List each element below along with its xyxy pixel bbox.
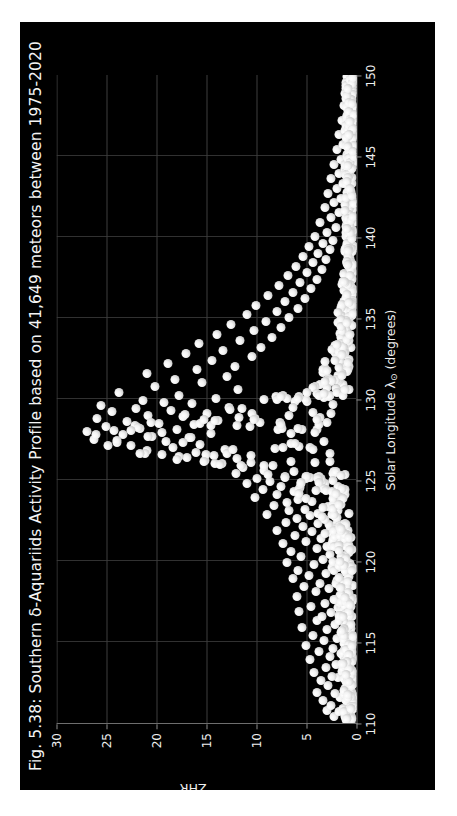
data-point — [301, 537, 310, 546]
plot-frame — [56, 75, 357, 724]
data-point — [126, 441, 135, 450]
data-point — [322, 625, 331, 634]
data-point — [321, 255, 330, 264]
data-point — [276, 323, 285, 332]
data-point — [310, 458, 319, 467]
data-point — [195, 440, 204, 449]
data-point — [242, 479, 251, 488]
data-point — [298, 252, 307, 261]
y-axis-tick-mark — [106, 724, 107, 729]
data-point — [272, 307, 281, 316]
data-point — [282, 558, 291, 567]
data-point — [343, 358, 352, 367]
data-point — [278, 443, 287, 452]
plot-area — [56, 75, 356, 723]
data-point — [251, 301, 260, 310]
data-point — [126, 426, 135, 435]
data-point — [295, 278, 304, 287]
chart-stage: Fig. 5.38: Southern δ-Aquariids Activity… — [20, 22, 435, 790]
data-point — [297, 623, 306, 632]
data-point — [157, 450, 166, 459]
data-point — [319, 437, 328, 446]
data-point — [187, 399, 196, 408]
data-point — [344, 130, 353, 139]
data-point — [181, 349, 190, 358]
data-point — [296, 552, 305, 561]
data-point — [304, 242, 313, 251]
data-point — [323, 189, 332, 198]
data-point — [284, 314, 293, 323]
data-point — [298, 522, 307, 531]
data-point — [328, 644, 337, 653]
x-axis-tick-label: 115 — [356, 632, 377, 655]
data-point — [343, 690, 352, 699]
data-point — [313, 249, 322, 258]
data-point — [348, 212, 356, 221]
data-point — [327, 672, 336, 681]
data-point — [199, 415, 208, 424]
data-point — [178, 438, 187, 447]
gridline-horizontal — [156, 75, 157, 723]
data-point — [322, 228, 331, 237]
data-point — [172, 455, 181, 464]
data-point — [256, 343, 265, 352]
data-point — [282, 498, 291, 507]
data-point — [166, 406, 175, 415]
gridline-vertical — [56, 155, 356, 156]
data-point — [308, 258, 317, 267]
data-point — [301, 641, 310, 650]
data-point — [142, 369, 151, 378]
data-point — [138, 396, 147, 405]
data-point — [312, 688, 321, 697]
data-point — [281, 518, 290, 527]
data-point — [338, 659, 347, 668]
data-point — [274, 281, 283, 290]
data-point — [336, 583, 345, 592]
x-axis-label-units: (degrees) — [382, 310, 397, 374]
data-point — [284, 411, 293, 420]
y-axis-tick-label: 0 — [349, 733, 363, 741]
x-axis-tick-label: 125 — [356, 470, 377, 493]
data-point — [304, 571, 313, 580]
data-point — [286, 429, 295, 438]
data-point — [249, 415, 258, 424]
data-point — [306, 602, 315, 611]
gridline-horizontal — [256, 75, 257, 723]
data-point — [319, 636, 328, 645]
data-point — [284, 506, 293, 515]
data-point — [326, 174, 335, 183]
data-point — [345, 117, 354, 126]
data-point — [308, 445, 317, 454]
data-point — [288, 288, 297, 297]
data-point — [146, 418, 155, 427]
data-point — [170, 375, 179, 384]
data-point — [343, 161, 352, 170]
data-point — [348, 147, 356, 156]
data-point — [159, 398, 168, 407]
data-point — [317, 265, 326, 274]
y-axis-tick-mark — [56, 724, 57, 729]
x-axis-tick-mark — [356, 561, 361, 562]
data-point — [218, 346, 227, 355]
x-axis-label: Solar Longitude λ⊙ (degrees) — [382, 76, 398, 724]
data-point — [259, 395, 268, 404]
data-point — [276, 420, 285, 429]
data-point — [222, 372, 231, 381]
data-point — [337, 350, 346, 359]
data-point — [322, 366, 331, 375]
data-point — [186, 433, 195, 442]
data-point — [318, 696, 327, 705]
data-point — [103, 441, 112, 450]
data-point — [334, 500, 343, 509]
data-point — [194, 339, 203, 348]
data-point — [291, 262, 300, 271]
data-point — [317, 512, 326, 521]
data-point — [330, 356, 339, 365]
figure-panel: Fig. 5.38: Southern δ-Aquariids Activity… — [20, 22, 435, 790]
data-point — [344, 298, 353, 307]
x-axis-tick-label: 135 — [356, 308, 377, 331]
data-point — [342, 318, 351, 327]
data-point — [272, 490, 281, 499]
data-point — [334, 546, 343, 555]
data-point — [293, 394, 302, 403]
